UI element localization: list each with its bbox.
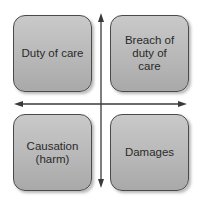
arrow-left-icon <box>14 101 23 107</box>
arrow-right-icon <box>178 101 187 107</box>
axes <box>0 0 198 202</box>
arrow-down-icon <box>98 179 104 188</box>
arrow-up-icon <box>98 13 104 22</box>
